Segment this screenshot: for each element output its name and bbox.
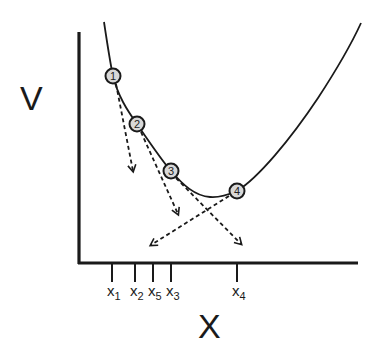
tick-x4: x4 — [232, 263, 246, 302]
tick-x4-sub: 4 — [240, 290, 246, 302]
potential-curve — [104, 22, 361, 197]
svg-text:x3: x3 — [166, 282, 180, 302]
svg-text:x4: x4 — [232, 282, 246, 302]
point-1: 1 — [106, 69, 121, 84]
point-1-label: 1 — [110, 70, 116, 82]
svg-text:x1: x1 — [107, 282, 121, 302]
tick-x1: x1 — [107, 263, 121, 302]
point-2-label: 2 — [134, 118, 140, 130]
tick-x2: x2 — [130, 263, 144, 302]
x-axis-label: X — [198, 307, 221, 345]
tick-x5: x5 — [148, 263, 162, 302]
tick-x3-sub: 3 — [174, 290, 180, 302]
tick-x1-sub: 1 — [115, 290, 121, 302]
point-2: 2 — [130, 117, 145, 132]
y-axis-label: V — [20, 79, 43, 117]
tick-x2-sub: 2 — [138, 290, 144, 302]
tick-x5-sub: 5 — [156, 290, 162, 302]
point-3-label: 3 — [168, 165, 174, 177]
svg-text:x2: x2 — [130, 282, 144, 302]
tick-x3: x3 — [166, 263, 180, 302]
point-4: 4 — [230, 184, 245, 199]
svg-text:x5: x5 — [148, 282, 162, 302]
point-3: 3 — [164, 164, 179, 179]
gradient-descent-diagram: V X 1 2 3 4 x1 x2 x5 x3 x4 — [0, 0, 380, 353]
point-4-label: 4 — [234, 185, 240, 197]
